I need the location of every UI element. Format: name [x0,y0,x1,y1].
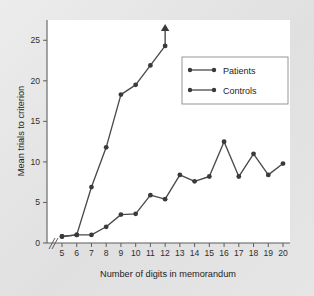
data-point-controls [281,161,286,166]
x-tick-label: 18 [249,248,259,258]
data-point-controls [74,232,79,237]
y-tick-label: 0 [35,238,40,248]
legend-marker-patients-start [188,68,192,72]
y-tick-label: 15 [30,116,40,126]
data-point-controls [192,179,197,184]
data-point-controls [207,174,212,179]
x-tick-label: 10 [131,248,141,258]
chart-legend: Patients Controls [182,57,288,104]
data-point-controls [104,224,109,229]
legend-marker-controls-start [188,88,192,92]
data-point-patients [133,82,138,87]
legend-background [182,57,288,104]
data-point-patients [89,185,94,190]
data-point-controls [89,232,94,237]
x-tick-label: 13 [175,248,185,258]
data-point-controls [163,197,168,202]
data-point-controls [236,174,241,179]
plot-area-background [47,20,290,243]
y-tick-label: 25 [30,35,40,45]
y-tick-label: 10 [30,157,40,167]
x-tick-label: 12 [160,248,170,258]
data-point-controls [222,139,227,144]
y-axis-title: Mean trials to criterion [16,86,26,176]
x-tick-label: 17 [234,248,244,258]
legend-label-patients: Patients [223,66,256,76]
x-tick-label: 5 [60,248,65,258]
data-point-controls [266,172,271,177]
legend-marker-patients-end [212,68,216,72]
data-point-controls [148,193,153,198]
x-tick-label: 6 [74,248,79,258]
data-point-patients [148,63,153,68]
line-chart: 0510152025 567891011121314151617181920 P… [0,0,314,296]
y-axis: 0510152025 [30,35,47,248]
x-tick-label: 19 [263,248,273,258]
x-tick-label: 8 [104,248,109,258]
x-axis: 567891011121314151617181920 [60,243,288,258]
data-point-patients [119,92,124,97]
x-axis-title: Number of digits in memorandum [100,269,236,279]
data-point-controls [119,212,124,217]
y-tick-label: 5 [35,197,40,207]
legend-marker-controls-end [212,88,216,92]
y-tick-label: 20 [30,76,40,86]
x-tick-label: 7 [89,248,94,258]
x-tick-label: 11 [146,248,155,258]
legend-label-controls: Controls [223,86,257,96]
x-tick-label: 14 [190,248,200,258]
x-tick-label: 20 [278,248,288,258]
x-tick-label: 16 [219,248,229,258]
x-tick-label: 15 [205,248,215,258]
data-point-controls [177,172,182,177]
data-point-controls [251,151,256,156]
data-point-patients [104,145,109,150]
chart-figure: 0510152025 567891011121314151617181920 P… [0,0,314,296]
data-point-controls [133,211,138,216]
data-point-controls [60,234,65,239]
x-tick-label: 9 [119,248,124,258]
